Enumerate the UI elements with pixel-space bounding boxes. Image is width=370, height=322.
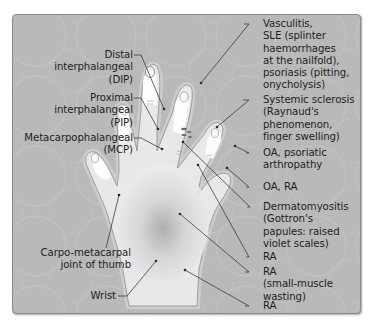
label-dip: Distal interphalangeal (DIP) [33, 49, 133, 86]
label-pip: Proximal interphalangeal (PIP) [33, 92, 133, 129]
label-ra-3: RA [263, 300, 358, 312]
label-nail-conditions: Vasculitis, SLE (splinter haemorrhages a… [263, 18, 358, 92]
label-ra-1: RA [263, 251, 358, 263]
ring-nail [180, 92, 188, 102]
diagram-panel: Distal interphalangeal (DIP) Proximal in… [12, 14, 361, 314]
little-nail [212, 129, 219, 138]
label-systemic-sclerosis: Systemic sclerosis (Raynaud's phenomenon… [263, 94, 358, 143]
label-ra-2: RA (small-muscle wasting) [263, 266, 358, 303]
label-mcp: Metacarpophalangeal (MCP) [23, 132, 133, 157]
label-dermatomyositis: Dermatomyositis (Gottron's papules: rais… [263, 201, 358, 250]
label-wrist: Wrist [73, 290, 116, 302]
label-cmc: Carpo-metacarpal joint of thumb [23, 247, 131, 272]
label-oa-psoriatic: OA, psoriatic arthropathy [263, 147, 358, 172]
label-oa-ra: OA, RA [263, 181, 358, 193]
